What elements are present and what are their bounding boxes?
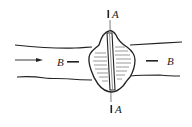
- diagram-canvas: A A B B: [0, 0, 192, 127]
- section-b-right-marker: B: [146, 55, 174, 67]
- section-a-bottom-label: A: [114, 103, 122, 115]
- section-b-left-label: B: [57, 56, 64, 68]
- upper-bank-right: [130, 42, 182, 45]
- lower-bank-right: [130, 75, 180, 76]
- section-a-top-label: A: [111, 8, 119, 20]
- section-a-top-marker: A: [108, 8, 120, 20]
- section-b-left-marker: B: [57, 56, 79, 68]
- section-a-bottom-marker: A: [111, 103, 123, 115]
- flow-arrow-icon: [15, 58, 43, 62]
- upper-bank-left: [15, 45, 92, 48]
- lower-bank-left: [17, 77, 92, 80]
- section-b-right-label: B: [167, 55, 174, 67]
